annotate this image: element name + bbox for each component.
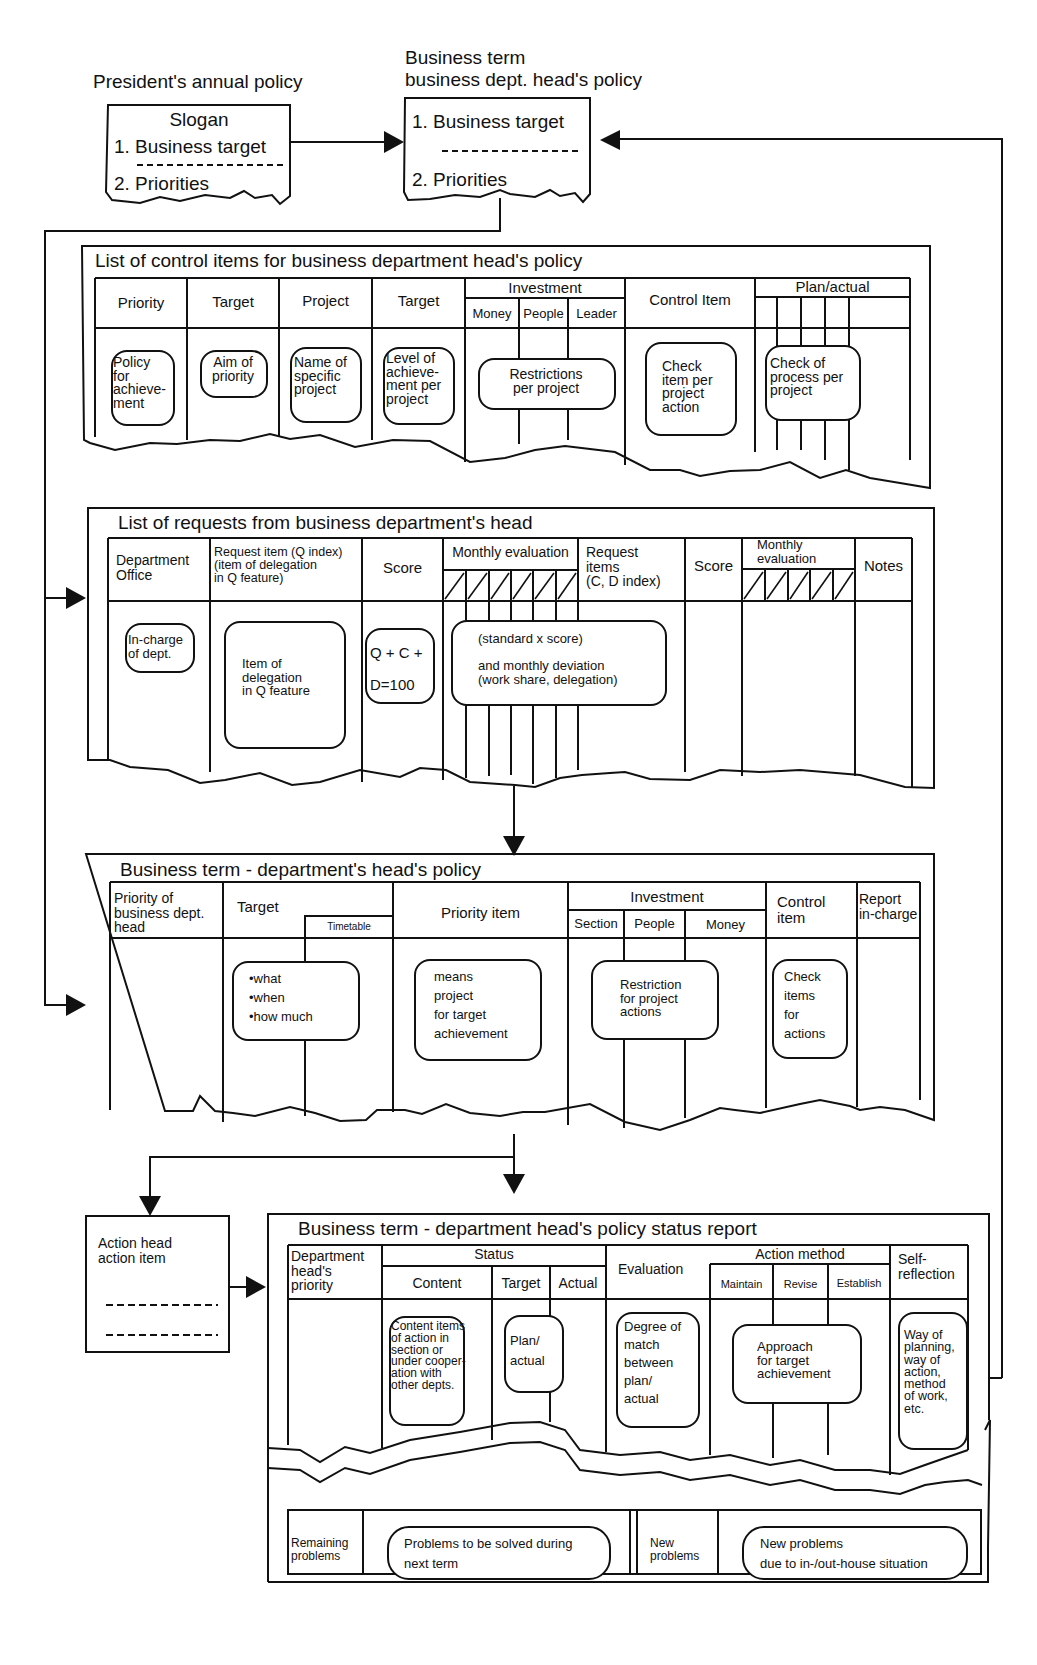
header-priority: Priority [95, 295, 187, 311]
header-money: Money [685, 918, 766, 932]
bubble-restrictions: Restrictions per project [478, 368, 614, 395]
slogan-label: Slogan [108, 110, 290, 130]
header-timetable: Timetable [305, 922, 393, 933]
header-evaluation: Evaluation [618, 1262, 683, 1277]
bubble-achievement-level: Level of achieve- ment per project [386, 352, 441, 407]
header-establish: Establish [828, 1278, 890, 1290]
header-priority-item: Priority item [393, 905, 568, 921]
header-dept-priority: Department head's priority [291, 1249, 364, 1293]
dept-business-target: 1. Business target [412, 112, 564, 132]
president-priorities: 2. Priorities [114, 174, 209, 194]
header-status: Status [382, 1247, 606, 1262]
header-notes: Notes [855, 558, 912, 574]
bubble-check-item: Check item per project action [662, 360, 713, 415]
bubble-self-reflection: Way of planning, way of action, method o… [904, 1329, 955, 1415]
header-target: Target [492, 1276, 550, 1291]
dept-policy-title-1: Business term [405, 48, 525, 68]
bubble-in-charge: In-charge of dept. [128, 633, 183, 660]
status-report-title: Business term - department head's policy… [298, 1219, 757, 1239]
header-actual: Actual [550, 1276, 606, 1291]
header-request-q: Request item (Q index) (item of delegati… [214, 546, 343, 585]
president-business-target: 1. Business target [114, 137, 266, 157]
control-items-title: List of control items for business depar… [95, 251, 582, 271]
new-problems-label: New problems [650, 1537, 699, 1562]
header-priority-dept: Priority of business dept. head [114, 891, 204, 935]
header-leader: Leader [568, 307, 625, 321]
remaining-problems-label: Remaining problems [291, 1537, 348, 1562]
header-revise: Revise [773, 1279, 828, 1291]
header-monthly-eval-1: Monthly evaluation [443, 545, 578, 560]
header-self-reflection: Self- reflection [898, 1252, 955, 1281]
header-project: Project [279, 293, 372, 309]
header-plan-actual: Plan/actual [755, 279, 910, 295]
remaining-problems-text: Problems to be solved during next term [404, 1534, 572, 1573]
header-investment: Investment [465, 280, 625, 296]
header-investment: Investment [568, 889, 766, 905]
bubble-delegation-item: Item of delegation in Q feature [242, 657, 310, 698]
bubble-aim-priority: Aim of priority [200, 356, 266, 383]
bubble-restriction-actions: Restriction for project actions [620, 978, 681, 1019]
header-target-level: Target [372, 293, 465, 309]
dept-policy-title: Business term - department's head's poli… [120, 860, 481, 880]
bubble-score-formula: Q + C + D=100 [370, 645, 423, 692]
header-section: Section [568, 917, 624, 931]
action-head-label: Action head action item [98, 1236, 172, 1265]
bubble-monthly-deviation: (standard x score) and monthly deviation… [478, 632, 617, 687]
bubble-content-items: Content items of action in section or un… [391, 1321, 466, 1392]
bubble-policy-achievement: Policy for achieve- ment [113, 356, 166, 411]
new-problems-text: New problems due to in-/out-house situat… [760, 1534, 928, 1573]
header-people: People [624, 917, 685, 931]
header-content: Content [382, 1276, 492, 1291]
bubble-project-name: Name of specific project [294, 356, 347, 397]
bubble-approach: Approach for target achievement [757, 1340, 831, 1381]
bubble-means-project: means project for target achievement [434, 968, 508, 1043]
header-report-in-charge: Report in-charge [859, 892, 917, 921]
header-score-1: Score [362, 560, 443, 576]
dept-policy-title-2: business dept. head's policy [405, 70, 642, 90]
bubble-degree-match: Degree of match between plan/ actual [624, 1318, 681, 1408]
header-monthly-eval-2: Monthly evaluation [757, 538, 816, 565]
dept-priorities: 2. Priorities [412, 170, 507, 190]
header-action-method: Action method [710, 1247, 890, 1262]
header-score-2: Score [685, 558, 742, 574]
president-policy-title: President's annual policy [93, 72, 303, 92]
header-control-item: Control item [777, 894, 825, 926]
header-target: Target [187, 294, 279, 310]
header-target: Target [237, 899, 279, 915]
bubble-plan-actual: Plan/ actual [510, 1331, 545, 1370]
bubble-what-when-how: •what •when •how much [249, 970, 313, 1027]
header-money: Money [465, 307, 519, 321]
header-maintain: Maintain [710, 1279, 773, 1291]
header-people: People [519, 307, 568, 321]
requests-title: List of requests from business departmen… [118, 513, 532, 533]
bubble-check-items: Check items for actions [784, 968, 825, 1043]
header-control-item: Control Item [625, 292, 755, 308]
header-dept-office: Department Office [116, 553, 189, 582]
bubble-check-process: Check of process per project [770, 357, 843, 398]
header-request-cd: Request items (C, D index) [586, 545, 661, 589]
